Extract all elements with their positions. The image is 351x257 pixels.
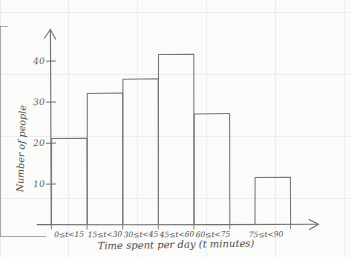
y-axis-tick-label-20: 20 xyxy=(33,138,45,149)
x-axis-category-label-0: 0≤t<15 xyxy=(54,230,84,240)
x-axis-category-label-1: 15≤t<30 xyxy=(88,230,123,240)
y-axis-tick-label-40: 40 xyxy=(33,56,45,67)
bar-5 xyxy=(255,177,291,225)
y-axis xyxy=(45,30,56,226)
bar-0 xyxy=(52,138,88,225)
y-axis-tick-label-10: 10 xyxy=(33,179,45,190)
bar-4 xyxy=(194,114,230,225)
bar-3 xyxy=(158,54,194,225)
x-axis-category-label-2: 30≤t<45 xyxy=(124,230,159,240)
bar-2 xyxy=(123,79,159,225)
histogram-plot-area xyxy=(0,0,351,257)
x-axis xyxy=(37,220,319,230)
histogram-figure: 10 20 30 40 0≤t<15 15≤t<30 30≤t<45 45≤t<… xyxy=(0,0,351,257)
bar-1 xyxy=(87,93,123,225)
y-axis-tick-label-30: 30 xyxy=(33,97,45,108)
